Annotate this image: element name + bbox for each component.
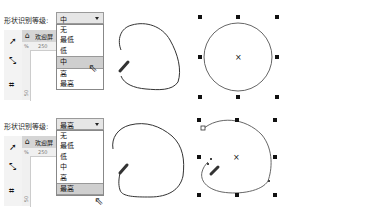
freehand-stroke-bottom — [113, 124, 184, 197]
recognized-circle: × — [198, 15, 279, 99]
freehand-stroke-top — [119, 24, 179, 90]
center-mark-icon: × — [235, 53, 242, 62]
pencil-icon — [120, 62, 128, 71]
recognized-curve: × — [197, 118, 277, 197]
center-mark-icon: × — [233, 153, 240, 162]
drawing-canvas: × × — [0, 0, 390, 211]
pencil-icon — [120, 165, 127, 173]
pencil-icon — [211, 167, 218, 174]
